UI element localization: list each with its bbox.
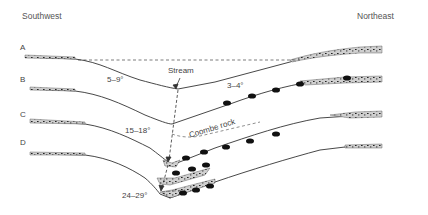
angle-label-3-4: 3–4° <box>227 81 244 90</box>
profile-label-a: A <box>20 43 25 52</box>
profile-label-b: B <box>20 75 25 84</box>
angle-label-5-9: 5–9° <box>107 75 124 84</box>
direction-northeast-label: Northeast <box>357 11 394 21</box>
stream-label: Stream <box>168 66 194 75</box>
angle-label-15-18: 15–18° <box>125 126 150 135</box>
valley-cross-section-diagram: Southwest Northeast A B C D Stream 5–9° … <box>0 0 428 215</box>
profile-drawing <box>0 0 428 215</box>
angle-label-24-29: 24–29° <box>122 191 147 200</box>
direction-southwest-label: Southwest <box>22 11 62 21</box>
profile-label-d: D <box>20 138 26 147</box>
profile-b <box>30 75 382 124</box>
profile-c <box>30 111 382 167</box>
profile-label-c: C <box>20 110 26 119</box>
